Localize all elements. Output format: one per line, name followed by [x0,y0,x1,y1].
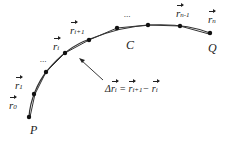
curve-diagram [0,0,235,142]
label-P: P [30,124,37,136]
label-Q: Q [208,42,217,54]
label-ri: ri [53,41,59,52]
label-ri1: ri+1 [70,25,84,36]
delta-equation: Δri = ri+1− ri [105,84,158,94]
label-C: C [126,39,134,51]
label-rn1: rn-1 [176,8,190,19]
label-rn: rn [208,14,216,25]
label-r1: r1 [15,80,23,91]
ellipsis-right: ... [124,10,131,19]
delta-arrow [81,60,103,80]
ellipsis-left: ... [40,55,47,64]
label-r0: r0 [9,100,17,111]
